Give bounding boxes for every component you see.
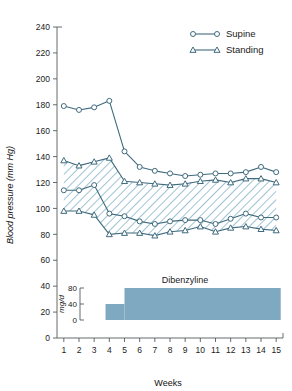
y-tick-label: 220 (36, 48, 50, 58)
x-tick-label: 8 (168, 345, 173, 355)
legend-label: Standing (226, 44, 264, 55)
chart-figure: 020406080100120140160180200220240 123456… (0, 0, 292, 391)
inset-y-tick-label: 40 (68, 300, 77, 309)
y-tick-label: 180 (36, 100, 50, 110)
x-axis-title: Weeks (154, 378, 182, 388)
inset-y-tick-label: 0 (73, 316, 78, 325)
data-point-circle (228, 171, 233, 176)
x-tick-label: 12 (226, 345, 236, 355)
data-point-circle (152, 221, 157, 226)
inset-y-axis-title: mg/d (57, 295, 66, 313)
x-tick-label: 9 (183, 345, 188, 355)
x-tick-label: 7 (152, 345, 157, 355)
x-tick-label: 11 (211, 345, 220, 355)
data-point-circle (61, 188, 66, 193)
x-tick-label: 13 (241, 345, 251, 355)
y-tick-label: 60 (41, 255, 51, 265)
y-tick-label: 240 (36, 22, 50, 32)
data-point-circle (137, 219, 142, 224)
y-axis-title: Blood pressure (mm Hg) (5, 146, 15, 244)
data-point-circle (191, 32, 196, 37)
data-point-circle (61, 104, 66, 109)
legend-label: Supine (226, 28, 256, 39)
x-tick-label: 2 (77, 345, 82, 355)
x-axis-tick-labels: 123456789101112131415 (61, 345, 281, 355)
data-point-circle (137, 164, 142, 169)
data-point-circle (259, 215, 264, 220)
x-tick-label: 4 (107, 345, 112, 355)
data-point-circle (76, 107, 81, 112)
y-tick-label: 20 (41, 307, 51, 317)
data-point-circle (243, 211, 248, 216)
x-tick-label: 15 (271, 345, 281, 355)
data-point-circle (152, 168, 157, 173)
y-tick-label: 40 (41, 281, 51, 291)
data-point-circle (107, 98, 112, 103)
data-point-circle (198, 172, 203, 177)
data-point-circle (92, 183, 97, 188)
data-point-circle (183, 218, 188, 223)
data-point-circle (122, 214, 127, 219)
inset-title: Dibenzyline (162, 275, 209, 285)
y-tick-label: 140 (36, 152, 50, 162)
data-point-circle (274, 170, 279, 175)
data-point-circle (243, 170, 248, 175)
y-tick-label: 0 (45, 333, 50, 343)
y-tick-label: 200 (36, 74, 50, 84)
data-point-circle (274, 215, 279, 220)
y-tick-label: 80 (41, 230, 51, 240)
x-tick-label: 1 (61, 345, 66, 355)
data-point-circle (215, 32, 220, 37)
data-point-circle (198, 218, 203, 223)
y-tick-label: 120 (36, 178, 50, 188)
dibenzyline-dose-bar (106, 304, 125, 320)
dibenzyline-dose-bar (124, 288, 280, 320)
x-tick-label: 3 (92, 345, 97, 355)
data-point-circle (213, 221, 218, 226)
inset-y-tick-label: 80 (68, 284, 77, 293)
data-point-circle (107, 211, 112, 216)
x-tick-label: 14 (256, 345, 266, 355)
data-point-circle (92, 105, 97, 110)
x-tick-label: 10 (196, 345, 206, 355)
data-point-circle (168, 171, 173, 176)
y-tick-label: 160 (36, 126, 50, 136)
data-point-circle (76, 188, 81, 193)
data-point-circle (228, 216, 233, 221)
data-point-circle (122, 149, 127, 154)
x-tick-label: 5 (122, 345, 127, 355)
blood-pressure-chart: 020406080100120140160180200220240 123456… (0, 0, 292, 391)
data-point-circle (213, 171, 218, 176)
y-tick-label: 100 (36, 204, 50, 214)
x-tick-label: 6 (137, 345, 142, 355)
data-point-circle (168, 219, 173, 224)
data-point-circle (183, 174, 188, 179)
data-point-circle (259, 164, 264, 169)
